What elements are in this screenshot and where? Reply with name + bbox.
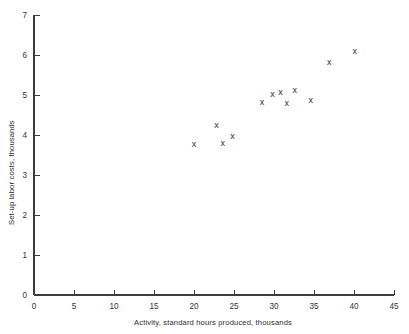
y-tick-label: 5 (22, 91, 27, 100)
data-point-marker: x (327, 57, 332, 67)
data-point-marker: x (285, 98, 290, 108)
x-tick-label: 30 (269, 302, 279, 311)
data-point-marker: x (309, 95, 314, 105)
data-point-marker: x (192, 139, 197, 149)
x-axis-title: Activity, standard hours produced, thous… (134, 318, 292, 327)
data-point-marker: x (221, 138, 226, 148)
x-tick-label: 20 (189, 302, 199, 311)
y-tick-label: 0 (22, 291, 27, 300)
y-axis-title: Set-up labor costs, thousands (7, 120, 16, 225)
y-tick-label: 4 (22, 131, 27, 140)
data-point-marker: x (230, 131, 235, 141)
data-point-marker: x (293, 85, 298, 95)
y-tick-label: 6 (22, 51, 27, 60)
data-point-series: xxxxxxxxxxxx (192, 46, 358, 149)
data-point-marker: x (353, 46, 358, 56)
data-point-marker: x (270, 89, 275, 99)
y-tick-label: 2 (22, 211, 27, 220)
y-tick-label: 3 (22, 171, 27, 180)
x-tick-label: 45 (389, 302, 399, 311)
x-tick-label: 5 (72, 302, 77, 311)
y-axis: 01234567 (22, 11, 40, 300)
plot-area: 01234567 051015202530354045 xxxxxxxxxxxx… (0, 0, 409, 334)
x-tick-label: 15 (149, 302, 159, 311)
x-tick-label: 0 (32, 302, 37, 311)
data-point-marker: x (260, 97, 265, 107)
x-tick-label: 10 (109, 302, 119, 311)
x-tick-label: 35 (309, 302, 319, 311)
x-axis: 051015202530354045 (32, 290, 399, 311)
x-tick-label: 40 (349, 302, 359, 311)
data-point-marker: x (214, 120, 219, 130)
scatter-chart: 01234567 051015202530354045 xxxxxxxxxxxx… (0, 0, 409, 334)
y-tick-label: 1 (22, 251, 27, 260)
x-tick-label: 25 (229, 302, 239, 311)
data-point-marker: x (278, 87, 283, 97)
y-tick-label: 7 (22, 11, 27, 20)
